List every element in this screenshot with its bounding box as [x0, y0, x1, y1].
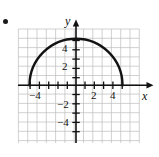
x-axis-label: x [142, 90, 147, 102]
y-tick-label-4: 4 [62, 43, 68, 54]
graph-figure: y x −4 2 4 4 2 −2 −4 [0, 0, 159, 157]
x-tick-label-2: 2 [91, 90, 97, 101]
x-tick-label-neg4: −4 [29, 90, 41, 101]
bullet-marker-icon [3, 19, 8, 24]
semicircle-plot [0, 0, 159, 157]
y-tick-label-neg4: −4 [57, 117, 69, 128]
y-axis-label: y [65, 15, 70, 27]
grid-lines [18, 29, 139, 143]
x-axis [18, 82, 154, 88]
x-tick-label-4: 4 [110, 90, 116, 101]
y-tick-label-2: 2 [62, 61, 68, 72]
y-tick-label-neg2: −2 [57, 99, 69, 110]
